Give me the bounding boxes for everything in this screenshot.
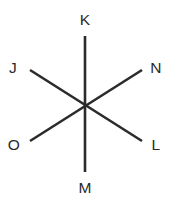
geometry-diagram: K J N O L M bbox=[0, 0, 172, 204]
vertex-label-m: M bbox=[78, 180, 91, 196]
vertex-label-o: O bbox=[8, 137, 20, 153]
vertex-label-l: L bbox=[152, 137, 161, 153]
vertex-label-n: N bbox=[150, 60, 161, 76]
vertex-label-j: J bbox=[9, 60, 17, 76]
intersecting-lines-figure bbox=[0, 0, 172, 204]
vertex-label-k: K bbox=[80, 12, 91, 28]
